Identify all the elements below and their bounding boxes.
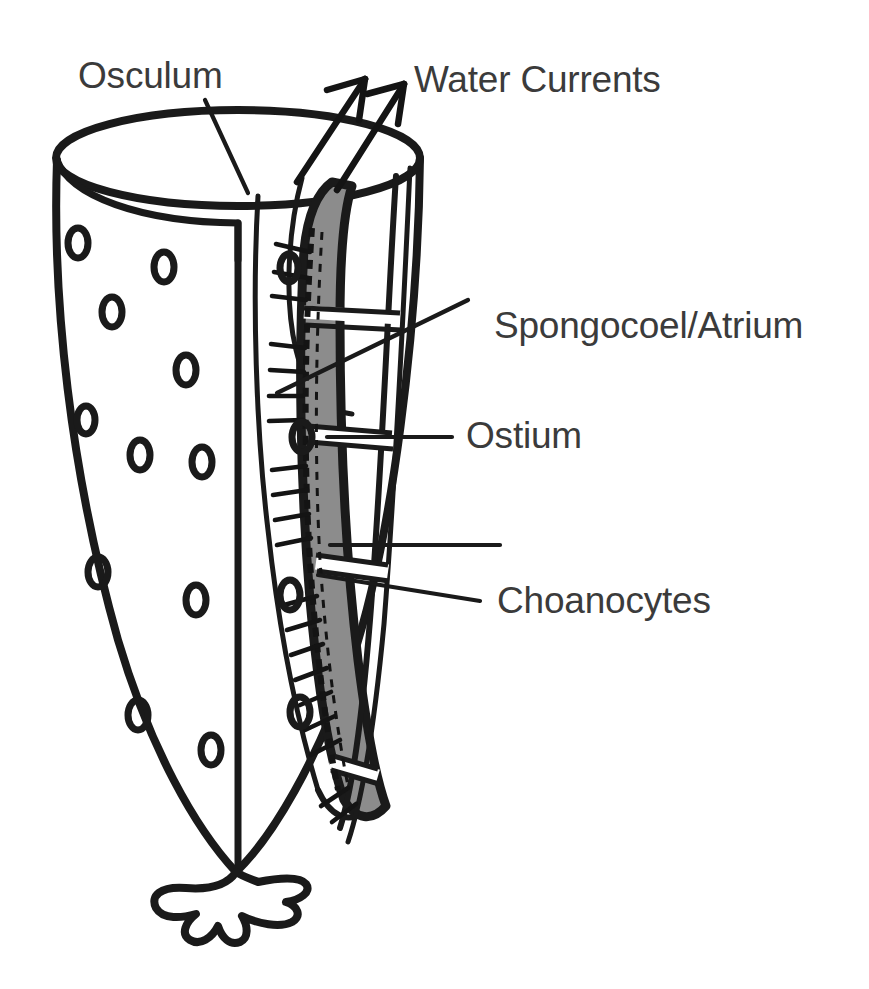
label-water-currents: Water Currents bbox=[414, 59, 661, 100]
label-osculum: Osculum bbox=[78, 55, 223, 96]
sponge-anatomy-illustration: Osculum Water Currents Spongocoel/Atrium… bbox=[0, 0, 869, 989]
label-choanocytes: Choanocytes bbox=[497, 580, 711, 621]
sponge-diagram: Osculum Water Currents Spongocoel/Atrium… bbox=[0, 0, 869, 989]
canvas-background bbox=[0, 0, 869, 989]
label-spongocoel-atrium: Spongocoel/Atrium bbox=[494, 305, 803, 346]
label-ostium: Ostium bbox=[466, 415, 582, 456]
